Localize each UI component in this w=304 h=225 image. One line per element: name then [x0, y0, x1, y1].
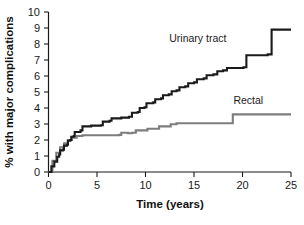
- x-tick-label: 10: [139, 179, 151, 191]
- caption-strip: [0, 218, 304, 225]
- x-axis-title: Time (years): [136, 198, 204, 210]
- y-tick-label: 4: [34, 102, 40, 114]
- chart-background: [0, 0, 304, 225]
- x-tick-label: 20: [236, 179, 248, 191]
- figure-container: 10 9 8 7 6 5 4 3 2 1 0 0 5 10 15 20: [0, 0, 304, 225]
- y-tick-label: 7: [34, 54, 40, 66]
- y-tick-label: 1: [34, 150, 40, 162]
- y-tick-label: 6: [34, 70, 40, 82]
- x-tick-label: 25: [285, 179, 297, 191]
- y-tick-label: 0: [34, 166, 40, 178]
- series-label-urinary-tract: Urinary tract: [169, 32, 226, 44]
- x-tick-label: 5: [94, 179, 100, 191]
- x-tick-label: 15: [188, 179, 200, 191]
- series-label-rectal: Rectal: [233, 94, 263, 106]
- complications-over-time-chart: 10 9 8 7 6 5 4 3 2 1 0 0 5 10 15 20: [0, 0, 304, 225]
- y-tick-label: 2: [34, 134, 40, 146]
- x-tick-label: 0: [45, 179, 51, 191]
- y-tick-label: 10: [28, 6, 40, 18]
- y-tick-label: 5: [34, 86, 40, 98]
- y-tick-label: 8: [34, 38, 40, 50]
- y-tick-label: 9: [34, 22, 40, 34]
- y-tick-label: 3: [34, 118, 40, 130]
- y-axis-title: % with major complications: [3, 16, 15, 167]
